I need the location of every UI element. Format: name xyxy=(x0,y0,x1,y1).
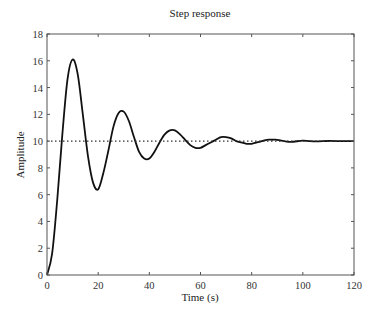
x-tick-label: 60 xyxy=(195,280,206,291)
x-tick-label: 80 xyxy=(246,280,257,291)
x-axis-label: Time (s) xyxy=(181,291,219,304)
x-tick-label: 0 xyxy=(44,280,49,291)
y-tick-label: 6 xyxy=(38,190,43,201)
x-tick-label: 40 xyxy=(144,280,155,291)
y-axis-label: Amplitude xyxy=(14,131,26,178)
y-tick-label: 12 xyxy=(33,109,44,120)
x-tick-label: 100 xyxy=(295,280,311,291)
chart-title: Step response xyxy=(170,7,231,19)
y-tick-label: 2 xyxy=(38,243,43,254)
step-response-curve xyxy=(47,59,354,275)
y-tick-label: 10 xyxy=(33,136,44,147)
y-tick-label: 8 xyxy=(38,163,43,174)
axes-box xyxy=(47,34,354,275)
axis-ticks: 020406080100120024681012141618 xyxy=(33,29,362,291)
step-response-chart: Step response 02040608010012002468101214… xyxy=(0,0,377,314)
x-tick-label: 20 xyxy=(93,280,104,291)
y-tick-label: 16 xyxy=(33,56,44,67)
y-tick-label: 0 xyxy=(38,270,43,281)
y-tick-label: 14 xyxy=(33,83,44,94)
y-tick-label: 18 xyxy=(33,29,44,40)
y-tick-label: 4 xyxy=(38,216,44,227)
x-tick-label: 120 xyxy=(346,280,362,291)
plot-area xyxy=(47,59,354,275)
